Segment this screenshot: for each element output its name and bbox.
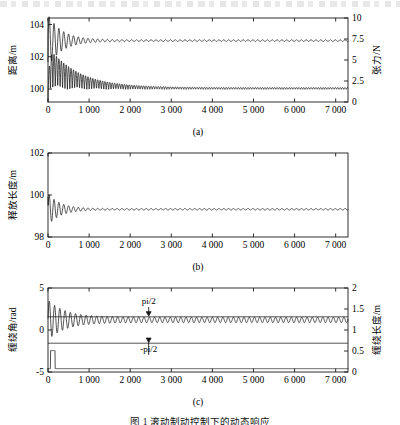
y-axis-title-b: 释放长度/m: [7, 169, 18, 220]
y2-tick-label-c-3: 0.5: [352, 346, 364, 356]
panel-letter-b: (b): [192, 262, 203, 273]
x-tick-label-b-6: 6 000: [284, 240, 306, 250]
data-curve-c-0: [48, 301, 348, 336]
x-tick-label-c-0: 0: [46, 375, 51, 385]
plot-frame-c: [48, 288, 348, 372]
x-tick-label-c-7: 7 000: [325, 375, 347, 385]
annotation-arrow-head-c-0: [146, 312, 151, 316]
y2-tick-label-a-0: 10: [352, 13, 362, 23]
panel-letter-a: (a): [193, 127, 204, 138]
x-tick-label-b-5: 5 000: [243, 240, 265, 250]
x-tick-label-b-7: 7 000: [325, 240, 347, 250]
y-axis-title-a: 距离/m: [7, 44, 18, 75]
data-curve-b-0: [48, 195, 348, 221]
subplot-panel-a: 01 0002 0003 0004 0005 0006 0007 0001041…: [0, 10, 400, 145]
x-tick-label-c-6: 6 000: [284, 375, 306, 385]
y-tick-label-b-2: 98: [35, 232, 45, 242]
annotation-label-c-0: pi/2: [142, 296, 156, 306]
data-curve-c-1: [48, 351, 348, 369]
panel-letter-c: (c): [193, 397, 204, 408]
y-tick-label-c-1: 0: [39, 325, 44, 335]
x-tick-label-c-1: 1 000: [78, 375, 100, 385]
x-tick-label-a-1: 1 000: [78, 105, 100, 115]
y2-axis-title-c: 缠绕长度/m: [371, 304, 382, 355]
x-tick-label-a-3: 3 000: [161, 105, 183, 115]
x-tick-label-a-5: 5 000: [243, 105, 265, 115]
y-tick-label-c-2: -5: [36, 367, 44, 377]
x-tick-label-b-0: 0: [46, 240, 51, 250]
y2-tick-label-a-2: 5: [352, 55, 357, 65]
data-curve-a-1: [48, 54, 348, 102]
x-tick-label-a-7: 7 000: [325, 105, 347, 115]
y2-tick-label-a-3: 2.5: [352, 76, 364, 86]
subplot-c: 01 0002 0003 0004 0005 0006 0007 00050-5…: [0, 278, 400, 414]
x-tick-label-b-4: 4 000: [202, 240, 224, 250]
x-tick-label-a-0: 0: [46, 105, 51, 115]
x-tick-label-b-1: 1 000: [78, 240, 100, 250]
data-curve-a-0: [48, 17, 348, 62]
x-tick-label-c-2: 2 000: [120, 375, 142, 385]
y-axis-title-c: 缠绕角/rad: [7, 307, 18, 352]
annotation-arrow-head-c-1: [146, 338, 151, 342]
x-tick-label-b-2: 2 000: [120, 240, 142, 250]
x-tick-label-c-4: 4 000: [202, 375, 224, 385]
figure-root: 01 0002 0003 0004 0005 0006 0007 0001041…: [0, 0, 400, 425]
y-tick-label-a-1: 102: [30, 52, 45, 62]
y-tick-label-c-0: 5: [39, 283, 44, 293]
y2-tick-label-c-2: 1: [352, 325, 357, 335]
x-tick-label-b-3: 3 000: [161, 240, 183, 250]
x-tick-label-a-2: 2 000: [120, 105, 142, 115]
subplot-b: 01 0002 0003 0004 0005 0006 0007 0001021…: [0, 145, 400, 285]
y2-tick-label-a-4: 0: [352, 97, 357, 107]
subplot-panel-b: 01 0002 0003 0004 0005 0006 0007 0001021…: [0, 145, 400, 285]
plot-frame-a: [48, 18, 348, 102]
y-tick-label-b-0: 102: [30, 148, 45, 158]
y2-axis-title-a: 张力/N: [371, 45, 382, 75]
x-tick-label-c-5: 5 000: [243, 375, 265, 385]
x-tick-label-a-4: 4 000: [202, 105, 224, 115]
plot-frame-b: [48, 153, 348, 237]
x-tick-label-a-6: 6 000: [284, 105, 306, 115]
scan-artifact-top: [0, 1, 400, 7]
x-tick-label-c-3: 3 000: [161, 375, 183, 385]
figure-caption: 图 1 滚动制动控制下的动态响应: [0, 414, 400, 425]
y-tick-label-a-0: 104: [30, 20, 45, 30]
y2-tick-label-c-4: 0: [352, 367, 357, 377]
subplot-a: 01 0002 0003 0004 0005 0006 0007 0001041…: [0, 10, 400, 145]
subplot-panel-c: 01 0002 0003 0004 0005 0006 0007 00050-5…: [0, 278, 400, 414]
y2-tick-label-c-1: 1.5: [352, 304, 364, 314]
y-tick-label-b-1: 100: [30, 190, 45, 200]
y-tick-label-a-2: 100: [30, 84, 45, 94]
y2-tick-label-c-0: 2: [352, 283, 357, 293]
y2-tick-label-a-1: 7.5: [352, 34, 364, 44]
